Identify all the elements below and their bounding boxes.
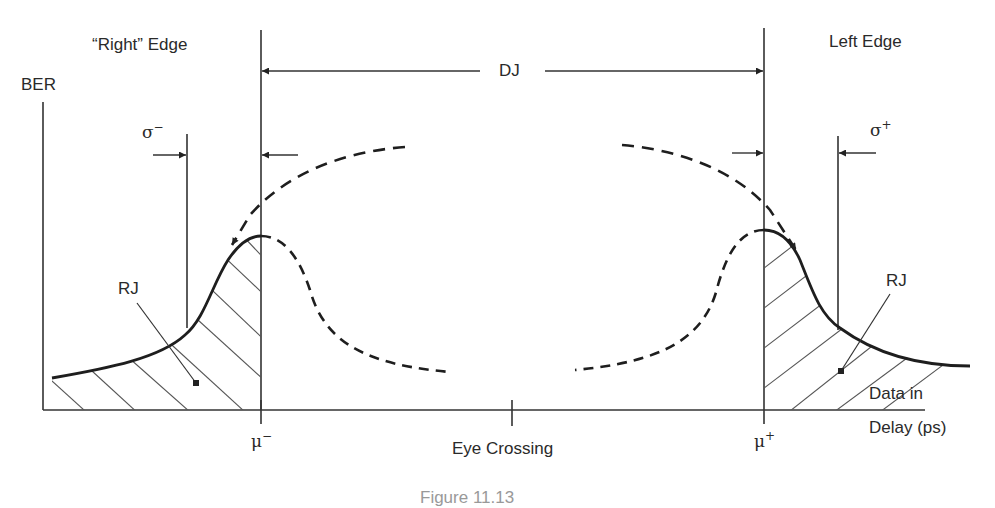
dj-pdf-dashed-left [261,236,450,372]
x-axis-label-line1: Data in [869,385,923,402]
sigma-minus-label: σ− [142,124,164,141]
figure-caption: Figure 11.13 [420,488,514,508]
ber-axis-label: BER [21,76,56,93]
dj-extension-dashed-left [232,147,405,245]
dj-label: DJ [499,62,520,79]
sigma-plus-label: σ+ [870,122,892,139]
x-axis [43,400,925,426]
left-edge-label: Left Edge [829,33,902,50]
rj-label-right: RJ [886,272,907,289]
x-axis-label-line2: Delay (ps) [869,419,946,436]
ber-curve-right [764,230,970,366]
rj-hatch-left [40,150,275,420]
rj-label-left: RJ [118,280,139,297]
rj-pointer-right [838,294,890,374]
dj-pdf-dashed-right [575,230,764,370]
right-edge-label: “Right” Edge [92,36,187,53]
dj-extension-dashed-right [622,145,796,250]
eye-crossing-label: Eye Crossing [452,440,553,457]
mu-minus-label: μ− [251,433,272,450]
mu-plus-label: μ+ [754,433,775,450]
